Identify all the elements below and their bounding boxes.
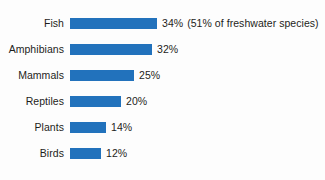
bar-fill xyxy=(70,96,121,107)
category-label: Mammals xyxy=(0,70,64,81)
value-annotation: (51% of freshwater species) xyxy=(187,18,319,29)
bar-track: 32% xyxy=(70,38,325,60)
value-label: 34% xyxy=(162,18,183,29)
category-label: Plants xyxy=(0,122,64,133)
category-label: Reptiles xyxy=(0,96,64,107)
bar-row-birds: Birds 12% xyxy=(0,142,325,164)
category-label: Birds xyxy=(0,148,64,159)
value-label: 14% xyxy=(111,122,132,133)
category-label: Fish xyxy=(0,18,64,29)
bar-track: 12% xyxy=(70,142,325,164)
value-label: 25% xyxy=(139,70,160,81)
category-label: Amphibians xyxy=(0,44,64,55)
bar-row-amphibians: Amphibians 32% xyxy=(0,38,325,60)
bar-row-mammals: Mammals 25% xyxy=(0,64,325,86)
bar-fill xyxy=(70,18,157,29)
bar-row-fish: Fish 34% (51% of freshwater species) xyxy=(0,12,325,34)
bar-track: 34% (51% of freshwater species) xyxy=(70,12,325,34)
bar-track: 20% xyxy=(70,90,325,112)
bar-track: 25% xyxy=(70,64,325,86)
bar-row-reptiles: Reptiles 20% xyxy=(0,90,325,112)
bar-fill xyxy=(70,122,106,133)
bar-chart: Fish 34% (51% of freshwater species) Amp… xyxy=(0,0,325,180)
bar-fill xyxy=(70,148,101,159)
bar-row-plants: Plants 14% xyxy=(0,116,325,138)
bar-fill xyxy=(70,44,152,55)
bar-track: 14% xyxy=(70,116,325,138)
value-label: 20% xyxy=(126,96,147,107)
value-label: 12% xyxy=(106,148,127,159)
value-label: 32% xyxy=(157,44,178,55)
bar-fill xyxy=(70,70,134,81)
